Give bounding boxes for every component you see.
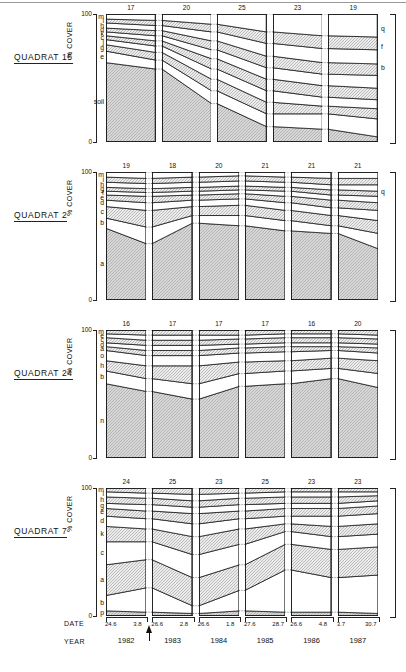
cover-band: [291, 508, 331, 516]
species-count: 17: [106, 4, 156, 11]
species-label-left: h: [88, 362, 104, 369]
date-start: 26.6: [151, 621, 163, 627]
year-label: 1985: [245, 636, 285, 645]
y-axis-title: % COVER: [66, 495, 73, 532]
cover-band: [291, 338, 331, 343]
cover-band: [291, 231, 331, 300]
cover-band: [338, 185, 378, 191]
species-label-left: b: [88, 219, 104, 226]
year-column: [338, 172, 378, 300]
cover-band: [245, 352, 285, 362]
cover-band: [273, 114, 323, 129]
cover-band: [273, 14, 323, 36]
cover-band: [291, 172, 331, 178]
species-count: 21: [291, 162, 331, 169]
cover-band: [199, 335, 239, 340]
figure-root: QUADRAT 15% COVER10001720252319mihdkcjge…: [0, 0, 406, 672]
year-column: [291, 172, 331, 300]
cover-band: [291, 343, 331, 347]
year-label: 1983: [152, 636, 192, 645]
year-column: [245, 330, 285, 458]
species-count: 23: [338, 478, 378, 485]
cover-band: [245, 384, 285, 458]
species-count: 17: [245, 320, 285, 327]
year-label: 1982: [106, 636, 146, 645]
date-start: 3.7: [337, 621, 345, 627]
panel-title: QUADRAT 7: [14, 526, 67, 538]
year-column: [245, 488, 285, 616]
cover-band: [106, 14, 156, 20]
cover-band: [152, 172, 192, 178]
cover-band: [245, 361, 285, 374]
cover-band: [328, 14, 378, 37]
y-axis-title: % COVER: [66, 21, 73, 58]
year-row-caption: YEAR: [64, 638, 85, 645]
cover-band: [291, 492, 331, 497]
cover-band: [291, 347, 331, 352]
cover-band: [152, 335, 192, 340]
species-label-left: soil: [88, 98, 104, 105]
species-label-left: g: [88, 44, 104, 51]
cover-band: [152, 391, 192, 458]
year-column: [106, 488, 146, 616]
cover-band: [152, 488, 192, 494]
year-label: 1986: [291, 636, 331, 645]
year-column: [338, 488, 378, 616]
cover-band: [152, 350, 192, 355]
cover-band: [199, 488, 239, 494]
species-label-left: n: [88, 417, 104, 424]
species-count: 23: [199, 478, 239, 485]
y-axis-title: % COVER: [66, 337, 73, 374]
species-count: 19: [328, 4, 378, 11]
species-count: 21: [245, 162, 285, 169]
cover-band: [328, 36, 378, 50]
treatment-arrow-stem: [149, 632, 151, 641]
species-label-left: d: [88, 517, 104, 524]
species-count: 21: [338, 162, 378, 169]
cover-band: [328, 63, 378, 76]
panel-bracket: [390, 488, 396, 618]
species-label-left: b: [88, 599, 104, 606]
year-column: [152, 172, 192, 300]
date-end: 28.7: [272, 621, 284, 627]
year-column: [273, 14, 323, 142]
cover-band: [199, 205, 239, 215]
date-row-caption: DATE: [64, 620, 84, 627]
year-column: [152, 488, 192, 616]
panel-bracket: [390, 14, 396, 144]
species-label-right: f: [381, 43, 383, 50]
y-axis-tick-label: 0: [68, 454, 92, 461]
species-label-left: d: [88, 199, 104, 206]
date-start: 27.6: [244, 621, 256, 627]
species-label-right: b: [381, 64, 385, 71]
species-label-left: a: [88, 260, 104, 267]
date-start: 26.6: [290, 621, 302, 627]
species-count: 23: [273, 4, 323, 11]
y-axis-tick-label: 0: [68, 296, 92, 303]
cover-band: [106, 63, 156, 142]
cover-band: [338, 492, 378, 497]
year-column: [217, 14, 267, 142]
cover-band: [291, 503, 331, 508]
cover-band: [328, 74, 378, 88]
species-label-left: c: [88, 549, 104, 556]
species-label-left: a: [88, 576, 104, 583]
species-count: 20: [162, 4, 212, 11]
cover-band: [199, 223, 239, 300]
cover-band: [291, 379, 331, 458]
species-count: 17: [152, 320, 192, 327]
cover-band: [106, 384, 146, 458]
species-label-left: e: [88, 53, 104, 60]
species-count: 25: [152, 478, 192, 485]
year-column: [245, 172, 285, 300]
y-axis-title: % COVER: [66, 179, 73, 216]
year-column: [291, 330, 331, 458]
date-end: 2.8: [180, 621, 188, 627]
species-count: 20: [199, 162, 239, 169]
date-end: 1.8: [226, 621, 234, 627]
year-column: [106, 14, 156, 142]
cover-band: [291, 334, 331, 338]
year-column: [106, 172, 146, 300]
year-label: 1987: [338, 636, 378, 645]
species-count: 18: [152, 162, 192, 169]
